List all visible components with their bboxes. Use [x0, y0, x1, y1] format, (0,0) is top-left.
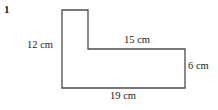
dimension-label-top: 15 cm: [124, 35, 150, 46]
dimension-label-left: 12 cm: [27, 40, 53, 51]
figure-number: 1: [4, 4, 10, 15]
figure-container: 1 12 cm 15 cm 6 cm 19 cm: [0, 0, 218, 110]
dimension-label-right: 6 cm: [188, 61, 209, 72]
l-shape-outline: [62, 10, 185, 88]
l-shape-diagram: [0, 0, 218, 110]
dimension-label-bottom: 19 cm: [110, 91, 136, 102]
